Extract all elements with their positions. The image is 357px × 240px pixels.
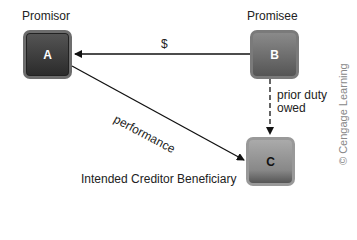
edge-b-c-label-line1: prior duty	[277, 88, 327, 102]
beneficiary-label: Intended Creditor Beneficiary	[81, 172, 236, 186]
edge-b-c-label-line2: owed	[277, 101, 306, 115]
copyright-credit: © Cengage Learning	[337, 63, 349, 165]
edge-b-a-label: $	[161, 37, 168, 51]
